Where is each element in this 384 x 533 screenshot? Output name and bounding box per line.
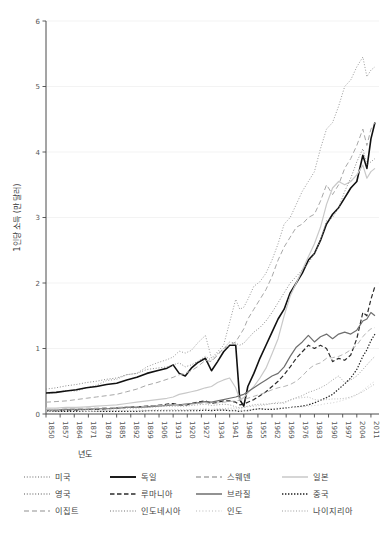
series-line-1 [46,123,375,407]
legend-label-8: 이집트 [55,506,79,516]
x-tick-label: 1892 [132,421,140,439]
legend-label-1: 독일 [141,472,157,482]
x-tick-label: 1906 [160,421,168,439]
x-axis-title: 년도 [78,449,92,459]
y-axis-title: 1인당 소득 (만 달러) [12,184,22,252]
legend-label-7: 중국 [313,489,329,499]
x-tick-label: 1850 [47,421,55,439]
x-tick-label: 1878 [104,421,112,439]
x-tick-label: 1871 [89,421,97,439]
legend-label-9: 인도네시아 [141,506,181,516]
legend-label-3: 일본 [313,472,329,482]
legend-label-4: 영국 [55,489,71,499]
x-tick-label: 1976 [301,421,309,439]
x-tick-label: 1885 [118,421,126,439]
x-tick-label: 1955 [259,421,267,439]
legend: 미국독일스웨덴일본영국루마니아브라질중국이집트인도네시아인도나이지리아 [24,472,353,516]
x-tick-label: 1969 [287,421,295,439]
y-tick-labels: 0123456 [36,18,46,419]
x-tick-label: 2004 [358,421,366,439]
axis-titles: 년도1인당 소득 (만 달러) [12,184,92,459]
series-line-2 [46,123,375,403]
x-tick-label: 1990 [330,421,338,439]
x-tick-label: 1920 [188,421,196,439]
x-tick-label: 1962 [273,421,281,439]
y-tick-label: 5 [36,83,40,91]
series-line-11 [46,384,375,412]
y-tick-label: 3 [36,214,40,222]
legend-label-0: 미국 [55,472,71,482]
legend-label-6: 브라질 [227,489,251,499]
chart-page: 0123456 18501857186418711878188518921899… [0,0,384,533]
x-tick-label: 1983 [315,421,323,439]
x-tick-label: 1864 [75,421,83,439]
x-tick-label: 1927 [202,421,210,439]
y-tick-label: 2 [36,280,40,288]
series-line-3 [46,165,375,408]
grid-lines [46,21,379,349]
series-line-7 [46,334,375,411]
y-tick-label: 6 [36,18,41,26]
y-tick-label: 0 [36,411,40,419]
x-tick-label: 1934 [217,421,225,439]
x-tick-label: 1899 [146,421,154,439]
legend-label-5: 루마니아 [141,489,173,499]
income-per-capita-line-chart: 0123456 18501857186418711878188518921899… [0,0,384,533]
legend-label-2: 스웨덴 [227,472,251,482]
x-tick-label: 1913 [174,421,182,439]
y-tick-label: 4 [36,149,41,157]
data-series-group [46,57,375,411]
series-line-4 [46,149,375,389]
legend-label-10: 인도 [227,506,243,516]
x-tick-label: 1857 [61,421,69,439]
x-tick-label: 1997 [344,421,352,439]
legend-label-11: 나이지리아 [313,506,353,516]
x-tick-label: 1941 [231,421,239,439]
y-tick-label: 1 [36,345,40,353]
x-tick-label: 2011 [372,421,380,439]
x-tick-label: 1948 [245,421,253,439]
x-tick-labels: 1850185718641871187818851892189919061913… [46,414,380,439]
